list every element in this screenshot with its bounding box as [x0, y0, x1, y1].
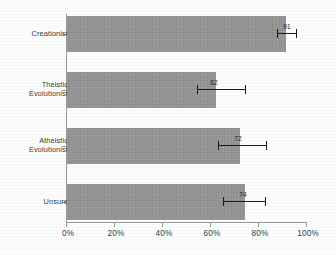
error-bar-cap-low-unsure	[223, 197, 224, 206]
bar-creationist	[67, 16, 286, 52]
value-label-creationist: 91	[283, 23, 291, 30]
bar-theistic-evolutionist	[67, 72, 216, 108]
x-tick-mark	[210, 222, 211, 227]
y-axis-label-theistic-evolutionist: Theistic Evolutionist	[29, 81, 68, 98]
y-axis-label-atheistic-evolutionist: Atheistic Evolutionist	[29, 137, 68, 154]
x-axis-line	[66, 222, 307, 223]
x-tick-label-20: 20%	[108, 229, 125, 238]
bar-chart: Creationist Theistic Evolutionist Atheis…	[0, 0, 336, 255]
bar-atheistic-evolutionist	[67, 128, 240, 164]
x-tick-mark	[306, 222, 307, 227]
x-tick-label-40: 40%	[156, 229, 173, 238]
x-tick-mark	[66, 222, 67, 227]
error-bar-cap-high-atheistic-evolutionist	[266, 141, 267, 150]
value-label-atheistic-evolutionist: 72	[234, 135, 242, 142]
bar-unsure	[67, 184, 245, 220]
value-label-theistic-evolutionist: 62	[210, 79, 218, 86]
value-label-unsure: 74	[239, 191, 247, 198]
error-bar-unsure	[223, 201, 266, 202]
x-tick-label-80: 80%	[252, 229, 269, 238]
x-tick-mark	[258, 222, 259, 227]
x-tick-mark	[114, 222, 115, 227]
error-bar-cap-high-unsure	[265, 197, 266, 206]
x-tick-mark	[162, 222, 163, 227]
x-tick-label-100: 100%	[297, 229, 319, 238]
error-bar-creationist	[277, 33, 296, 34]
error-bar-cap-low-theistic-evolutionist	[197, 85, 198, 94]
error-bar-atheistic-evolutionist	[218, 145, 267, 146]
y-axis-label-creationist: Creationist	[32, 30, 68, 39]
y-axis-label-unsure: Unsure	[44, 198, 68, 207]
error-bar-theistic-evolutionist	[197, 89, 245, 90]
x-tick-label-60: 60%	[204, 229, 221, 238]
x-tick-label-0: 0%	[62, 229, 74, 238]
error-bar-cap-low-atheistic-evolutionist	[218, 141, 219, 150]
chart-page: Creationist Theistic Evolutionist Atheis…	[0, 0, 336, 255]
error-bar-cap-high-theistic-evolutionist	[245, 85, 246, 94]
error-bar-cap-high-creationist	[296, 29, 297, 38]
error-bar-cap-low-creationist	[277, 29, 278, 38]
